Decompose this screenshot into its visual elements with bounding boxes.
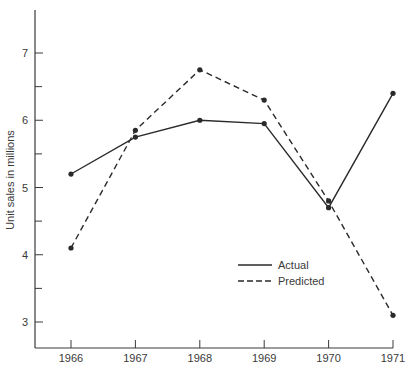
y-ticks: 34567 xyxy=(22,47,43,328)
data-point xyxy=(197,67,202,72)
x-tick-label: 1967 xyxy=(123,352,147,364)
series-actual xyxy=(68,91,395,211)
data-point xyxy=(262,97,267,102)
series-predicted xyxy=(68,67,395,318)
x-tick-label: 1971 xyxy=(381,352,405,364)
data-point xyxy=(133,128,138,133)
series-line xyxy=(71,70,393,315)
legend-label-actual: Actual xyxy=(278,259,309,271)
x-tick-label: 1969 xyxy=(252,352,276,364)
data-series xyxy=(68,67,395,318)
x-tick-label: 1970 xyxy=(316,352,340,364)
axes xyxy=(35,10,393,348)
x-ticks: 196619671968196919701971 xyxy=(59,340,405,364)
data-point xyxy=(262,121,267,126)
y-tick-label: 3 xyxy=(22,316,28,328)
data-point xyxy=(133,134,138,139)
y-tick-label: 4 xyxy=(22,249,28,261)
line-chart: 34567 196619671968196919701971 Unit sale… xyxy=(0,0,413,369)
x-tick-label: 1966 xyxy=(59,352,83,364)
data-point xyxy=(197,118,202,123)
data-point xyxy=(390,313,395,318)
legend: ActualPredicted xyxy=(238,259,324,287)
y-tick-label: 6 xyxy=(22,114,28,126)
series-line xyxy=(71,93,393,207)
y-tick-label: 7 xyxy=(22,47,28,59)
legend-label-predicted: Predicted xyxy=(278,275,324,287)
data-point xyxy=(326,205,331,210)
data-point xyxy=(390,91,395,96)
data-point xyxy=(68,245,73,250)
data-point xyxy=(326,198,331,203)
y-tick-label: 5 xyxy=(22,182,28,194)
data-point xyxy=(68,171,73,176)
y-axis-label: Unit sales in millions xyxy=(4,130,16,230)
x-tick-label: 1968 xyxy=(188,352,212,364)
